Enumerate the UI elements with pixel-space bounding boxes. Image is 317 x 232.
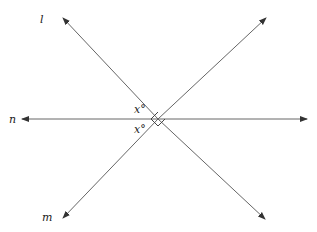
label-l: l bbox=[40, 13, 44, 26]
label-n: n bbox=[9, 113, 16, 126]
line-m bbox=[63, 18, 266, 218]
geometry-diagram: l m n x° x° bbox=[0, 0, 317, 232]
label-m: m bbox=[42, 211, 52, 224]
angle-label-lower: x° bbox=[134, 123, 146, 136]
angle-label-upper: x° bbox=[134, 103, 146, 116]
